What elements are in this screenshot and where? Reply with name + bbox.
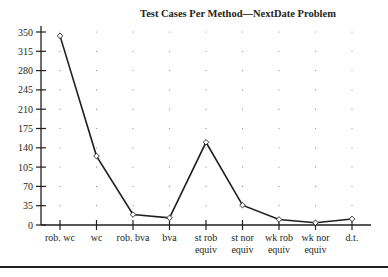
x-tick-label: wc: [91, 232, 103, 243]
grid-dot: [205, 147, 206, 148]
y-tick-label: 175: [18, 123, 33, 134]
grid-dot: [169, 51, 170, 52]
grid-dot: [351, 51, 352, 52]
x-tick-label: rob. wc: [45, 232, 76, 243]
grid-dot: [132, 89, 133, 90]
grid-dot: [242, 31, 243, 32]
grid-dot: [59, 31, 60, 32]
grid-dot: [278, 128, 279, 129]
grid-dot: [278, 31, 279, 32]
x-tick-label: equiv: [304, 244, 326, 255]
grid-dot: [59, 89, 60, 90]
y-tick-label: 280: [18, 65, 33, 76]
y-tick-label: 35: [23, 200, 33, 211]
grid-dot: [132, 109, 133, 110]
grid-dot: [132, 186, 133, 187]
grid-dot: [315, 205, 316, 206]
grid-dot: [132, 167, 133, 168]
y-tick-label: 140: [18, 142, 33, 153]
grid-dot: [96, 89, 97, 90]
y-tick-label: 105: [18, 162, 33, 173]
grid-dot: [169, 31, 170, 32]
grid-dot: [242, 89, 243, 90]
x-tick-label: d.t.: [346, 232, 359, 243]
grid-dot: [278, 70, 279, 71]
grid-dot: [242, 147, 243, 148]
grid-dot: [351, 70, 352, 71]
grid-dot: [315, 128, 316, 129]
grid-dot: [96, 51, 97, 52]
grid-dot: [315, 70, 316, 71]
grid-dot: [96, 147, 97, 148]
grid-dot: [315, 109, 316, 110]
x-tick-label: equiv: [268, 244, 290, 255]
grid-dot: [278, 109, 279, 110]
grid-dot: [351, 205, 352, 206]
y-tick-label: 350: [18, 27, 33, 38]
grid-dot: [169, 186, 170, 187]
grid-dot: [351, 109, 352, 110]
y-tick-label: 210: [18, 104, 33, 115]
x-tick-label: wk nor: [301, 232, 330, 243]
grid-dot: [169, 70, 170, 71]
grid-dot: [169, 109, 170, 110]
grid-dot: [351, 128, 352, 129]
data-line: [60, 36, 352, 223]
grid-dot: [96, 70, 97, 71]
bottom-rule: [0, 266, 388, 268]
grid-dot: [315, 167, 316, 168]
grid-dot: [205, 128, 206, 129]
grid-dot: [132, 147, 133, 148]
grid-dot: [96, 31, 97, 32]
x-tick-label: equiv: [195, 244, 217, 255]
grid-dot: [96, 167, 97, 168]
grid-dot: [278, 167, 279, 168]
y-tick-label: 245: [18, 84, 33, 95]
grid-dot: [59, 186, 60, 187]
x-tick-label: st rob: [195, 232, 218, 243]
grid-dot: [205, 186, 206, 187]
diamond-marker-icon: [276, 217, 282, 223]
grid-dot: [132, 70, 133, 71]
x-tick-label: st nor: [231, 232, 254, 243]
grid-dot: [169, 147, 170, 148]
grid-dot: [242, 128, 243, 129]
x-tick-label: wk rob: [265, 232, 293, 243]
grid-dot: [205, 51, 206, 52]
grid-dot: [205, 31, 206, 32]
diamond-marker-icon: [167, 215, 173, 221]
grid-dot: [242, 51, 243, 52]
grid-dot: [315, 31, 316, 32]
grid-dot: [242, 109, 243, 110]
grid-dot: [242, 186, 243, 187]
grid-dot: [351, 186, 352, 187]
grid-dot: [132, 31, 133, 32]
grid-dot: [169, 89, 170, 90]
grid-dot: [351, 147, 352, 148]
grid-dot: [351, 167, 352, 168]
grid-dot: [59, 51, 60, 52]
grid-dot: [242, 70, 243, 71]
grid-dot: [278, 147, 279, 148]
grid-dot: [59, 167, 60, 168]
grid-dot: [96, 109, 97, 110]
diamond-marker-icon: [57, 33, 63, 39]
grid-dot: [169, 128, 170, 129]
grid-dot: [205, 205, 206, 206]
grid-dot: [96, 186, 97, 187]
grid-dot: [59, 147, 60, 148]
grid-dot: [96, 205, 97, 206]
grid-dot: [169, 205, 170, 206]
grid-dot: [132, 51, 133, 52]
y-tick-label: 70: [23, 181, 33, 192]
y-tick-label: 0: [28, 220, 33, 231]
y-tick-label: 315: [18, 46, 33, 57]
grid-dot: [278, 205, 279, 206]
grid-dot: [59, 128, 60, 129]
diamond-marker-icon: [349, 216, 355, 222]
line-chart: 03570105140175210245280315350rob. wcwcro…: [0, 0, 388, 277]
x-tick-label: rob. bva: [117, 232, 150, 243]
grid-dot: [351, 89, 352, 90]
grid-dot: [205, 89, 206, 90]
grid-dot: [169, 167, 170, 168]
